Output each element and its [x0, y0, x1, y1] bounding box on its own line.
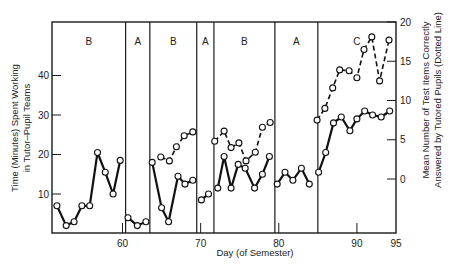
data-point-marker — [387, 108, 393, 114]
x-tick-label: 95 — [390, 238, 402, 249]
data-point-marker — [378, 114, 384, 120]
tutoring-chart: BABABAC 60708090951020304005101520 Day (… — [0, 0, 451, 270]
data-point-marker — [215, 185, 221, 191]
data-point-marker — [274, 181, 280, 187]
phase-label: C — [353, 36, 360, 47]
y2-tick-label: 20 — [400, 17, 412, 28]
y-axis-title: Time (Minutes) Spent Working in Tutor–Pu… — [9, 64, 32, 192]
data-point-marker — [190, 129, 196, 135]
y2-axis-title: Mean Number of Test Items Correctly Answ… — [420, 12, 443, 188]
y-tick-label: 30 — [38, 110, 50, 121]
x-axis-title: Day (of Semester) — [216, 247, 293, 258]
data-point-marker — [354, 116, 360, 122]
time-spent-line — [152, 162, 193, 221]
y2-axis-title-line2: Answered by Tutored Pupils (Dotted Line) — [432, 12, 443, 188]
data-point-marker — [267, 120, 273, 126]
data-point-marker — [149, 159, 155, 165]
data-point-marker — [134, 223, 140, 229]
data-point-marker — [338, 114, 344, 120]
data-point-marker — [252, 185, 258, 191]
data-point-marker — [198, 197, 204, 203]
data-point-marker — [95, 150, 101, 156]
phase-label: A — [202, 36, 209, 47]
data-point-marker — [330, 85, 336, 91]
phase-label: B — [86, 36, 93, 47]
phase-label: B — [170, 36, 177, 47]
y2-axis-title-line1: Mean Number of Test Items Correctly — [420, 21, 431, 178]
data-point-marker — [243, 158, 249, 164]
phase-label: A — [134, 36, 141, 47]
data-point-marker — [158, 154, 164, 160]
data-point-marker — [206, 191, 212, 197]
data-point-marker — [290, 177, 296, 183]
y-axis-title-line1: Time (Minutes) Spent Working — [9, 64, 20, 192]
data-point-marker — [63, 223, 69, 229]
x-tick-label: 90 — [351, 238, 363, 249]
y-tick-label: 20 — [38, 149, 50, 160]
data-point-marker — [235, 161, 241, 167]
phase-label: B — [241, 36, 248, 47]
data-point-marker — [221, 154, 227, 160]
y-axis-title-line2: in Tutor–Pupil Teams — [21, 83, 32, 172]
data-point-marker — [259, 124, 265, 130]
phase-separators — [126, 22, 318, 233]
data-point-marker — [159, 205, 165, 211]
time-spent-line — [57, 153, 120, 226]
y2-tick-label: 5 — [400, 134, 406, 145]
data-point-marker — [173, 144, 179, 150]
data-point-marker — [259, 171, 265, 177]
axes — [52, 22, 396, 233]
data-point-marker — [166, 158, 172, 164]
data-point-marker — [79, 203, 85, 209]
data-point-marker — [361, 47, 367, 53]
data-point-marker — [354, 75, 360, 81]
data-point-marker — [236, 140, 242, 146]
data-point-marker — [298, 165, 304, 171]
data-point-marker — [221, 128, 227, 134]
data-point-marker — [182, 181, 188, 187]
data-point-marker — [175, 173, 181, 179]
data-point-marker — [242, 165, 248, 171]
data-point-marker — [190, 177, 196, 183]
y-tick-label: 40 — [38, 70, 50, 81]
data-point-marker — [252, 149, 258, 155]
data-point-marker — [102, 169, 108, 175]
data-point-marker — [322, 105, 328, 111]
data-point-marker — [212, 138, 218, 144]
data-point-marker — [377, 78, 383, 84]
data-point-marker — [71, 219, 77, 225]
data-point-marker — [362, 108, 368, 114]
y2-tick-label: 0 — [400, 174, 406, 185]
x-tick-label: 60 — [117, 238, 129, 249]
data-point-marker — [347, 128, 353, 134]
phase-labels: BABABAC — [86, 36, 361, 47]
data-point-marker — [386, 37, 392, 43]
data-point-marker — [143, 219, 149, 225]
data-point-marker — [314, 117, 320, 123]
data-point-marker — [306, 181, 312, 187]
data-point-marker — [54, 203, 60, 209]
data-point-marker — [331, 120, 337, 126]
data-point-marker — [228, 185, 234, 191]
data-point-marker — [346, 68, 352, 74]
phase-label: A — [293, 36, 300, 47]
y2-tick-label: 10 — [400, 95, 412, 106]
plot-frame — [52, 22, 396, 233]
data-point-marker — [181, 133, 187, 139]
data-point-marker — [228, 145, 234, 151]
x-tick-label: 70 — [195, 238, 207, 249]
data-point-marker — [125, 215, 131, 221]
data-point-marker — [110, 191, 116, 197]
y2-tick-label: 15 — [400, 56, 412, 67]
data-point-marker — [337, 67, 343, 73]
data-point-marker — [117, 157, 123, 163]
y-tick-label: 10 — [38, 189, 50, 200]
data-point-marker — [166, 219, 172, 225]
data-point-marker — [266, 154, 272, 160]
data-point-marker — [316, 169, 322, 175]
data-point-marker — [369, 34, 375, 40]
data-point-marker — [370, 112, 376, 118]
data-point-marker — [282, 169, 288, 175]
data-series — [54, 34, 393, 229]
data-point-marker — [87, 203, 93, 209]
